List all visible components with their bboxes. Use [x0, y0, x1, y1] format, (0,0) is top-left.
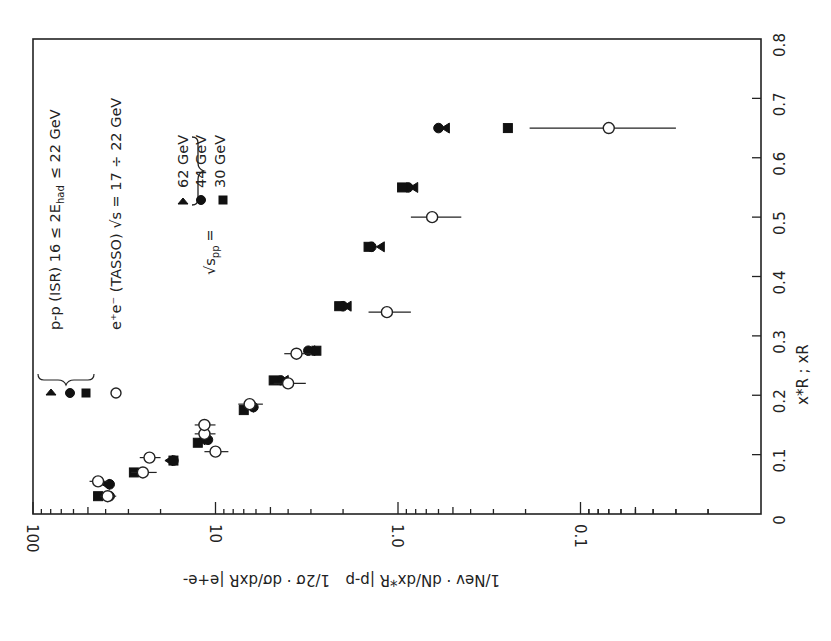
xr-tick-label: 0 [771, 515, 789, 525]
data-point-30gev [503, 124, 512, 133]
log-tick-label: 1.0 [388, 524, 406, 548]
y-axis-title-ee: 1/2σ · dσ/dxR |e+e- [183, 571, 330, 589]
svg-text:x*R ; xR: x*R ; xR [794, 344, 812, 405]
legend-62gev: 62 GeV [175, 135, 191, 188]
xr-tick-label: 0.8 [771, 33, 789, 57]
xr-tick-label: 0.7 [771, 92, 789, 116]
legend-pp-text: p-p (ISR) 16 ≤ 2E [47, 204, 63, 330]
data-point-ee [137, 467, 148, 478]
rotated-log-scatter-chart: 00.10.20.30.40.50.60.70.8 100101.00.1 p-… [0, 0, 831, 641]
sqrt-s-label: √s [202, 258, 218, 275]
legend-pp-line: p-p (ISR) 16 ≤ 2Ehad≤ 22 GeV [47, 109, 66, 330]
log-tick-label: 100 [23, 524, 41, 553]
data-point-ee [291, 348, 302, 359]
data-point-ee [381, 307, 392, 318]
log-axis: 100101.00.1 [23, 502, 708, 553]
data-point-30gev [312, 346, 321, 355]
data-point-ee [244, 399, 255, 410]
legend-pp-sub: had [55, 185, 66, 204]
filled-circle-icon [66, 389, 75, 398]
legend-44gev: 44 GeV [193, 135, 209, 188]
data-point-ee [199, 419, 210, 430]
triangle-icon [178, 198, 188, 204]
data-point-30gev [193, 438, 202, 447]
filled-circle-icon [197, 196, 206, 205]
y-axis-title-pp: 1/Nev · dN/dx*R |p-p [345, 571, 500, 589]
xr-tick-label: 0.6 [771, 152, 789, 176]
open-circle-icon [111, 388, 121, 398]
svg-text:1/Nev · dN/dx*R |p-p: 1/Nev · dN/dx*R |p-p [345, 571, 500, 589]
data-point-ee [144, 452, 155, 463]
data-point-ee [102, 491, 113, 502]
legend-30gev: 30 GeV [212, 135, 228, 188]
log-tick-label: 10 [206, 524, 224, 543]
filled-square-icon [82, 389, 90, 397]
data-point-30gev [398, 183, 407, 192]
data-point-30gev [364, 242, 373, 251]
svg-text:1/2σ · dσ/dxR |e+e-: 1/2σ · dσ/dxR |e+e- [183, 571, 330, 589]
data-point-62gev [376, 242, 384, 252]
legend-pp-brace [38, 374, 94, 385]
data-point-44gev [434, 123, 444, 133]
legend-pp-end: ≤ 22 GeV [47, 109, 63, 179]
data-point-ee [210, 446, 221, 457]
xr-tick-label: 0.3 [771, 330, 789, 354]
data-point-ee [93, 476, 104, 487]
xr-tick-label: 0.4 [771, 271, 789, 295]
data-point-ee [603, 123, 614, 134]
legend-ee-line: e⁺e⁻ (TASSO) √s = 17 ÷ 22 GeV [108, 98, 124, 330]
data-point-30gev [335, 302, 344, 311]
legend: p-p (ISR) 16 ≤ 2Ehad≤ 22 GeV e⁺e⁻ (TASSO… [38, 98, 228, 398]
log-tick-label: 0.1 [571, 524, 589, 548]
data-point-ee [283, 378, 294, 389]
data-point-30gev [169, 456, 178, 465]
legend-ee-text: e⁺e⁻ (TASSO) √s = 17 ÷ 22 GeV [108, 98, 124, 330]
data-point-ee [427, 212, 438, 223]
legend-sqrt-s: √spp= [202, 229, 221, 275]
svg-text:p-p (ISR) 16 ≤ 2Ehad≤ 22 GeV: p-p (ISR) 16 ≤ 2Ehad≤ 22 GeV [47, 109, 66, 330]
triangle-icon [46, 389, 56, 395]
xr-tick-label: 0.2 [771, 389, 789, 413]
xr-axis: 00.10.20.30.40.50.60.70.8 [752, 33, 789, 525]
xr-tick-label: 0.5 [771, 211, 789, 235]
svg-text:√spp=: √spp= [202, 229, 221, 275]
plot-frame [33, 39, 761, 514]
xr-tick-label: 0.1 [771, 449, 789, 473]
filled-square-icon [219, 196, 227, 204]
xr-axis-title: x*R ; xR [794, 344, 812, 405]
